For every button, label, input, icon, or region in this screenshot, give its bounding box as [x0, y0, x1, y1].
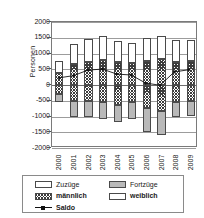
- saldo-marker: [72, 74, 75, 77]
- legend-label: weiblich: [130, 192, 158, 200]
- saldo-polyline: [59, 69, 189, 85]
- y-tick-label: -500: [16, 96, 50, 103]
- x-tick-label-2006: 2006: [142, 150, 149, 176]
- y-tick-label: 0: [16, 81, 50, 88]
- legend-item-saldo: Saldo: [35, 202, 75, 213]
- saldo-marker: [187, 68, 190, 71]
- y-tick-label: 2000: [16, 18, 50, 25]
- x-tick-label-2009: 2009: [186, 150, 193, 176]
- y-tick-label: -2000: [16, 144, 50, 151]
- saldo-marker: [130, 73, 133, 76]
- y-tick-label: -1500: [16, 128, 50, 135]
- legend-item-fortzüge: Fortzüge: [109, 179, 158, 190]
- white-box-icon: [109, 193, 126, 200]
- x-tick-label-2004: 2004: [113, 150, 120, 176]
- x-axis-tick-labels: 2000200120022003200420052006200720082009: [51, 148, 197, 174]
- chart-legend: ZuzügeFortzügemännlichweiblichSaldo: [22, 175, 184, 213]
- legend-label: Fortzüge: [130, 181, 158, 189]
- x-tick-label-2001: 2001: [69, 150, 76, 176]
- y-tick-label: 1500: [16, 33, 50, 40]
- legend-item-weiblich: weiblich: [109, 191, 158, 202]
- saldo-line-svg: [52, 22, 196, 146]
- x-tick-label-2007: 2007: [157, 150, 164, 176]
- y-tick-label: 1000: [16, 49, 50, 56]
- saldo-marker: [86, 68, 89, 71]
- saldo-marker: [144, 81, 147, 84]
- x-tick-label-2000: 2000: [55, 150, 62, 176]
- legend-label: Zuzüge: [56, 181, 79, 189]
- saldo-line-layer: [52, 22, 196, 146]
- legend-item-zuzüge: Zuzüge: [35, 179, 79, 190]
- y-tick-label: 500: [16, 65, 50, 72]
- line-marker-icon: [35, 204, 52, 211]
- legend-label: Saldo: [56, 204, 75, 212]
- saldo-marker: [115, 72, 118, 75]
- gray-box-icon: [109, 181, 126, 188]
- white-box-icon: [35, 181, 52, 188]
- x-tick-label-2008: 2008: [172, 150, 179, 176]
- migration-bar-chart: Personen 2000150010005000-500-1000-1500-…: [0, 0, 204, 218]
- x-tick-label-2005: 2005: [128, 150, 135, 176]
- saldo-marker: [58, 76, 61, 79]
- y-tick-label: -1000: [16, 112, 50, 119]
- saldo-marker: [101, 67, 104, 70]
- legend-label: männlich: [56, 192, 87, 200]
- plot-area: [51, 21, 197, 147]
- hatched-box-icon: [35, 193, 52, 200]
- x-tick-label-2003: 2003: [99, 150, 106, 176]
- legend-item-männlich: männlich: [35, 191, 87, 202]
- saldo-markers: [58, 67, 191, 86]
- x-tick-label-2002: 2002: [84, 150, 91, 176]
